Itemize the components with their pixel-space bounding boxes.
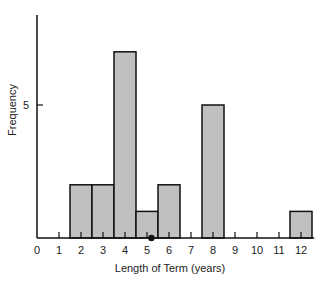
x-tick-label: 9 — [232, 244, 238, 256]
x-tick-label: 7 — [188, 244, 194, 256]
x-tick-label: 1 — [56, 244, 62, 256]
histogram-chart: 50123456789101112Length of Term (years)F… — [0, 0, 321, 284]
histogram-bar — [158, 185, 180, 238]
x-tick-label: 6 — [166, 244, 172, 256]
mean-marker-dot — [148, 235, 154, 241]
x-tick-label: 8 — [210, 244, 216, 256]
histogram-bar — [70, 185, 92, 238]
y-axis-title: Frequency — [6, 84, 18, 136]
histogram-bar — [114, 52, 136, 238]
x-tick-label: 3 — [100, 244, 106, 256]
x-axis-title: Length of Term (years) — [115, 262, 225, 274]
x-tick-label: 11 — [273, 244, 284, 256]
x-tick-label: 5 — [144, 244, 150, 256]
x-tick-label: 4 — [122, 244, 128, 256]
y-tick-label: 5 — [23, 99, 29, 111]
histogram-bar — [202, 105, 224, 238]
x-tick-label: 2 — [78, 244, 84, 256]
x-tick-label: 0 — [34, 244, 40, 256]
x-tick-label: 10 — [251, 244, 263, 256]
histogram-bar — [92, 185, 114, 238]
x-tick-label: 12 — [295, 244, 307, 256]
